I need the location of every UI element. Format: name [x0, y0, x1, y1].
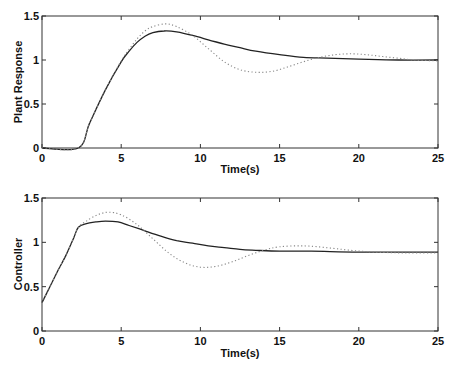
y-tick-label: 0 [33, 142, 39, 154]
x-tick-label: 0 [39, 152, 45, 164]
x-tick-label: 10 [194, 335, 206, 347]
y-tick-label: 1.5 [24, 192, 39, 204]
plant-response-plot: 051015202500.511.5Time(s)Plant Response [12, 10, 444, 175]
y-tick-label: 1 [33, 236, 39, 248]
dotted-series-line [42, 24, 438, 150]
x-tick-label: 20 [353, 152, 365, 164]
solid-series-line [42, 31, 438, 150]
x-tick-label: 10 [194, 152, 206, 164]
controller-plot: 051015202500.511.5Time(s)Controller [12, 192, 444, 359]
x-tick-label: 5 [118, 152, 124, 164]
solid-series-line [42, 221, 438, 303]
x-tick-label: 15 [273, 152, 285, 164]
figure: 051015202500.511.5Time(s)Plant Response … [0, 0, 457, 367]
x-tick-label: 0 [39, 335, 45, 347]
x-tick-label: 25 [432, 152, 444, 164]
axes-frame [42, 16, 438, 148]
y-tick-label: 1 [33, 54, 39, 66]
x-axis-label: Time(s) [221, 163, 260, 175]
x-tick-label: 20 [353, 335, 365, 347]
x-tick-label: 15 [273, 335, 285, 347]
y-tick-label: 0 [33, 325, 39, 337]
y-tick-label: 0.5 [24, 98, 39, 110]
x-tick-label: 5 [118, 335, 124, 347]
axes-frame [42, 198, 438, 331]
y-tick-label: 0.5 [24, 281, 39, 293]
x-tick-label: 25 [432, 335, 444, 347]
y-axis-label: Plant Response [12, 41, 24, 124]
y-tick-label: 1.5 [24, 10, 39, 22]
dotted-series-line [42, 212, 438, 302]
x-axis-label: Time(s) [221, 347, 260, 359]
y-axis-label: Controller [12, 237, 24, 290]
